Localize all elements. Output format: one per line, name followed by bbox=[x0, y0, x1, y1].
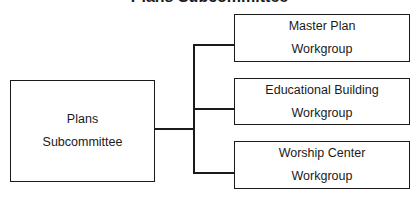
root-node-label-line1: Plans bbox=[67, 108, 98, 131]
child-node-label-line1: Worship Center bbox=[279, 142, 366, 165]
child-node-master-plan: Master Plan Workgroup bbox=[234, 14, 410, 62]
child-node-educational-building: Educational Building Workgroup bbox=[234, 78, 410, 125]
child-node-label-line2: Workgroup bbox=[292, 38, 353, 61]
child-node-worship-center: Worship Center Workgroup bbox=[234, 141, 410, 189]
connector-branch-1 bbox=[193, 44, 235, 46]
connector-branch-3 bbox=[193, 172, 235, 174]
root-node-plans-subcommittee: Plans Subcommittee bbox=[10, 80, 155, 182]
child-node-label-line1: Educational Building bbox=[265, 79, 378, 102]
child-node-label-line2: Workgroup bbox=[292, 165, 353, 188]
connector-root-horizontal bbox=[154, 128, 194, 130]
child-node-label-line1: Master Plan bbox=[289, 15, 356, 38]
child-node-label-line2: Workgroup bbox=[292, 102, 353, 125]
connector-branch-2 bbox=[193, 108, 235, 110]
diagram-title: Plans Subcommittee bbox=[0, 0, 419, 6]
root-node-label-line2: Subcommittee bbox=[43, 131, 123, 154]
